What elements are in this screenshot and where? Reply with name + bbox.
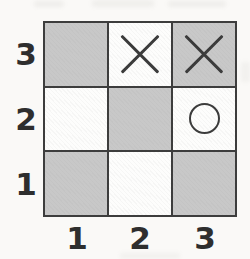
scan-artifact: [168, 1, 226, 7]
cell-r1c3[interactable]: [173, 152, 235, 215]
col-label-1: 1: [59, 221, 95, 255]
scan-artifact: [34, 1, 64, 7]
row-label-2: 2: [8, 102, 44, 136]
col-label-2: 2: [122, 221, 158, 255]
cell-r3c3[interactable]: [173, 23, 235, 86]
x-mark-icon: [122, 36, 159, 73]
scan-artifact: [241, 62, 250, 82]
cell-r2c1[interactable]: [45, 88, 107, 151]
cell-r3c1[interactable]: [45, 23, 107, 86]
cell-r2c3[interactable]: [173, 88, 235, 151]
cell-r1c2[interactable]: [109, 152, 171, 215]
row-label-1: 1: [8, 167, 44, 201]
scan-artifact: [92, 0, 154, 7]
worksheet-page: 3 2 1 1 2 3: [0, 0, 250, 259]
cell-r1c1[interactable]: [45, 152, 107, 215]
cell-r2c2[interactable]: [109, 88, 171, 151]
coordinate-grid-board: [43, 21, 237, 217]
x-mark-icon: [186, 36, 223, 73]
row-label-3: 3: [8, 37, 44, 71]
col-label-3: 3: [187, 221, 223, 255]
cell-r3c2[interactable]: [109, 23, 171, 86]
o-mark-icon: [189, 103, 220, 134]
